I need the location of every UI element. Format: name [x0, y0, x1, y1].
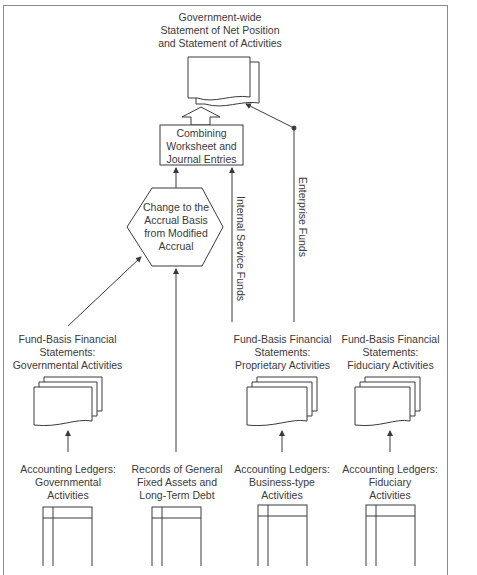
combining-worksheet-label: Combining Worksheet and Journal Entries: [160, 127, 243, 166]
fund-statements-fiduciary-label: Fund-Basis Financial Statements: Fiducia…: [328, 333, 453, 372]
ledger-general-records-label: Records of General Fixed Assets and Long…: [118, 463, 236, 502]
government-wide-statements-icon: [188, 57, 259, 106]
fund-statements-governmental-label: Fund-Basis Financial Statements: Governm…: [5, 333, 130, 372]
ledger-fiduciary-label: Accounting Ledgers: Fiduciary Activities: [330, 463, 450, 502]
governmental-statements-icon: [34, 377, 102, 426]
accrual-conversion-label: Change to the Accrual Basis from Modifie…: [137, 201, 215, 253]
ledger-icon-fiduciary: [366, 505, 415, 566]
ledger-icon-governmental: [43, 507, 92, 566]
fund-statements-proprietary-label: Fund-Basis Financial Statements: Proprie…: [220, 333, 345, 372]
ledger-business-type-label: Accounting Ledgers: Business-type Activi…: [222, 463, 342, 502]
government-wide-statements-label: Government-wide Statement of Net Positio…: [140, 11, 300, 50]
fiduciary-statements-icon: [355, 377, 420, 426]
enterprise-funds-label: Enterprise Funds: [297, 177, 309, 257]
ledger-icon-business-type: [258, 505, 307, 566]
ledger-icon-general-records: [152, 507, 201, 566]
proprietary-statements-icon: [247, 377, 317, 426]
hollow-arrow-icon: [182, 107, 220, 125]
ledger-governmental-label: Accounting Ledgers: Governmental Activit…: [8, 463, 128, 502]
internal-service-funds-label: Internal Service Funds: [235, 196, 247, 301]
